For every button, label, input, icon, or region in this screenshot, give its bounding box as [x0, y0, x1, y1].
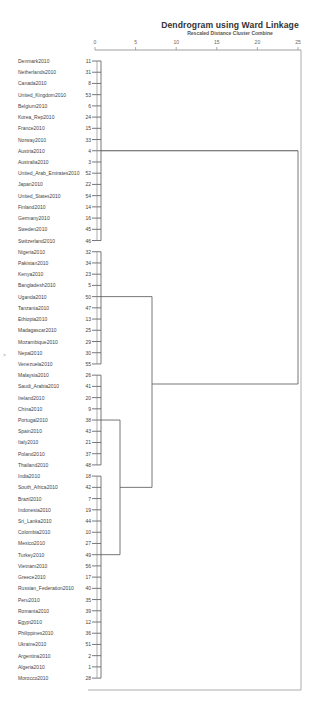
dendrogram-tree: [0, 0, 326, 704]
